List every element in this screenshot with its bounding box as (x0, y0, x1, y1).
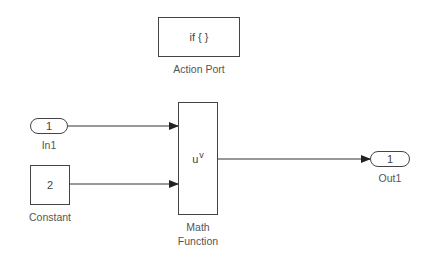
action-port-content: if { } (190, 31, 209, 43)
action-port-label: Action Port (158, 63, 240, 75)
out1-port-block[interactable]: 1 (370, 151, 410, 167)
out1-label: Out1 (368, 172, 412, 184)
math-function-exponent: v (199, 150, 204, 160)
math-function-label-line2: Function (168, 235, 228, 247)
constant-block[interactable]: 2 (30, 165, 70, 205)
math-function-base: u (192, 153, 198, 165)
in1-label: In1 (29, 139, 69, 151)
out1-port-number: 1 (387, 153, 393, 165)
math-function-block[interactable]: uv (178, 102, 218, 215)
math-function-expression: uv (192, 153, 204, 165)
constant-label: Constant (20, 211, 80, 223)
in1-port-block[interactable]: 1 (30, 118, 68, 134)
constant-value: 2 (47, 179, 53, 191)
in1-port-number: 1 (46, 120, 52, 132)
math-function-label-line1: Math (168, 221, 228, 233)
action-port-block[interactable]: if { } (158, 17, 240, 57)
